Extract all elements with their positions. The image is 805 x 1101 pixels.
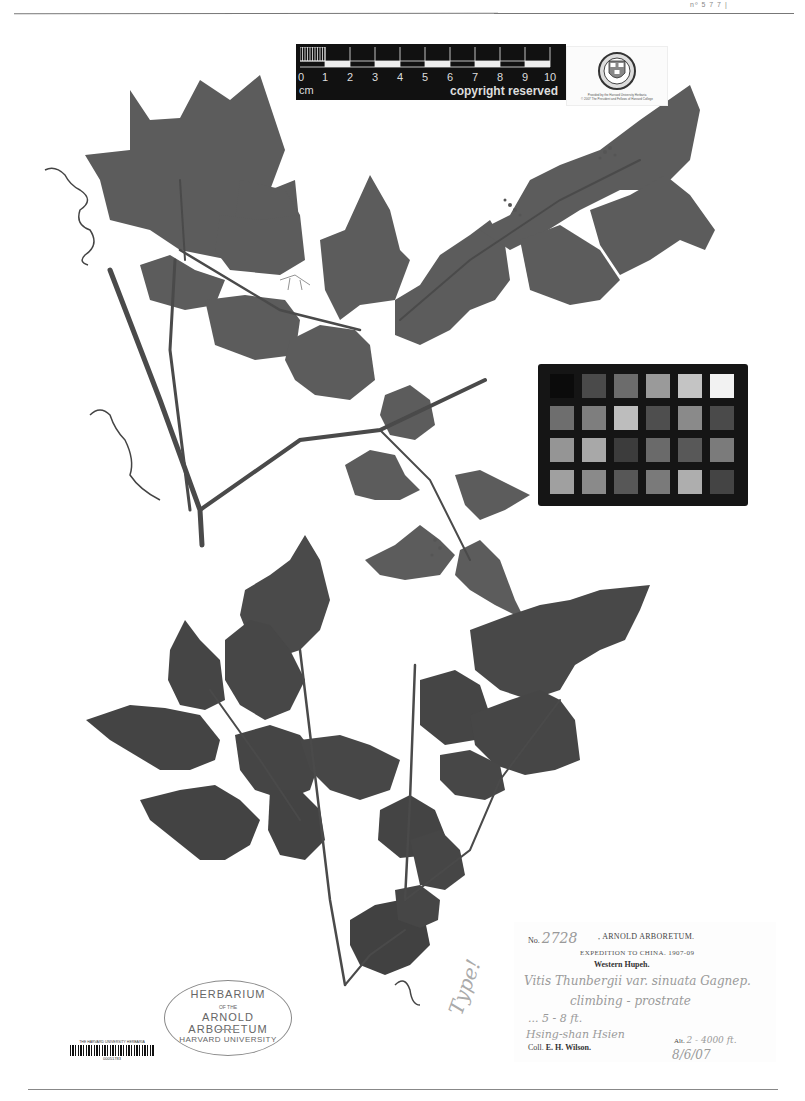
stamp-line: ARNOLD ARBORETUM [165,1011,291,1035]
scale-number: 6 [447,71,453,83]
color-swatch [614,438,638,462]
copyright-notice: copyright reserved [450,84,558,98]
harvard-seal-card: Provided by the Harvard University Herba… [566,46,668,106]
collector-prefix: Coll. [528,1043,544,1052]
color-swatch [678,438,702,462]
scale-number: 7 [472,71,478,83]
label-handwritten-taxon: Vitis Thunbergii var. sinuata Gagnep. [524,974,751,988]
label-handwritten-habit: climbing - prostrate [570,994,691,1008]
stamp-line: HERBARIUM [165,988,291,1000]
scale-unit: cm [299,84,314,96]
scale-number: 8 [497,71,503,83]
color-swatch [678,406,702,430]
color-swatch [550,438,574,462]
color-swatch [678,374,702,398]
color-swatch [582,470,606,494]
color-swatch [614,406,638,430]
scale-numbers: 0 1 2 3 4 5 6 7 8 9 10 [298,71,560,85]
label-region: Western Hupeh. [594,960,650,969]
color-swatch [646,406,670,430]
color-swatch [582,438,606,462]
collection-label: No. 2728 , ARNOLD ARBORETUM. EXPEDITION … [514,922,776,1062]
label-altitude: Alt. 2 - 4000 ft. [674,1035,737,1045]
label-handwritten-height: ... 5 - 8 ft. [528,1012,582,1025]
specimen-barcode: THE HARVARD UNIVERSITY HERBARIA 00051783 [70,1040,154,1062]
label-handwritten-locality: Hsing-shan Hsien [526,1028,625,1041]
scale-number: 10 [544,71,556,83]
color-calibration-chart [538,364,748,506]
scale-number: 1 [322,71,328,83]
color-swatch [550,374,574,398]
scale-number: 9 [522,71,528,83]
scale-number: 0 [298,71,304,83]
label-number-prefix: No. [528,936,540,945]
label-number-value: 2728 [542,930,578,946]
stamp-line: HARVARD UNIVERSITY [165,1035,291,1044]
label-expedition: EXPEDITION TO CHINA. 1907-09 [580,949,694,957]
color-swatch [646,470,670,494]
color-swatch [710,374,734,398]
color-swatch [582,406,606,430]
color-swatch [614,374,638,398]
seal-caption-line: © 2007 The President and Fellows of Harv… [571,97,663,101]
altitude-label: Alt. [674,1037,685,1045]
label-collector: Coll. E. H. Wilson. [528,1043,591,1052]
color-swatch [710,470,734,494]
barcode-title: THE HARVARD UNIVERSITY HERBARIA [70,1040,154,1044]
scale-ticks [300,47,556,72]
scale-bar: 0 1 2 3 4 5 6 7 8 9 10 cm copyright rese… [296,44,566,100]
bottom-rule [28,1089,778,1090]
collector-name: E. H. Wilson. [546,1043,591,1052]
color-swatch [646,438,670,462]
color-swatch [710,438,734,462]
color-swatch [614,470,638,494]
color-swatch [710,406,734,430]
color-swatch [678,470,702,494]
seal-caption: Provided by the Harvard University Herba… [571,93,663,101]
herbarium-stamp: HERBARIUM OF THE ARNOLD ARBORETUM HARVAR… [164,980,292,1056]
label-institution: , ARNOLD ARBORETUM. [598,932,694,941]
harvard-seal-icon [597,51,637,91]
stamp-divider [217,1029,239,1030]
stamp-line: OF THE [165,1004,291,1010]
color-swatch [646,374,670,398]
scale-number: 3 [372,71,378,83]
color-swatch [582,374,606,398]
label-number: No. 2728 [528,930,577,946]
altitude-value: 2 - 4000 ft. [686,1035,736,1045]
barcode-number: 00051783 [70,1056,154,1061]
color-swatch [550,406,574,430]
barcode-bars [70,1045,154,1056]
color-swatch [550,470,574,494]
label-handwritten-date: 8/6/07 [672,1048,711,1062]
herbarium-sheet: nº 5 7 7 | [0,0,805,1101]
scale-number: 2 [347,71,353,83]
scale-number: 4 [397,71,403,83]
scale-number: 5 [422,71,428,83]
